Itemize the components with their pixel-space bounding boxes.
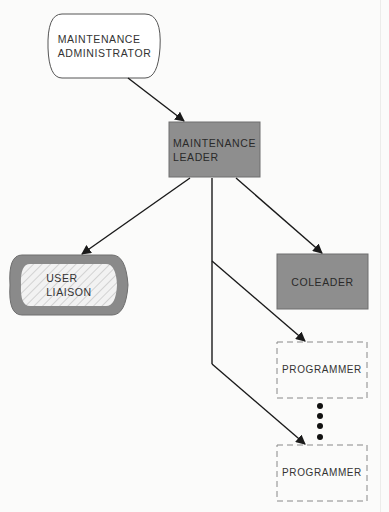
node-coleader: COLEADER — [277, 254, 368, 309]
liaison-label-line1: USER — [46, 271, 92, 285]
administrator-label-line1: MAINTENANCE — [58, 32, 152, 46]
edge-admin-leader — [128, 78, 184, 121]
programmer1-label: PROGRAMMER — [282, 363, 362, 377]
edge-leader-coleader — [236, 178, 322, 253]
node-user-liaison: USER LIAISON — [10, 255, 128, 315]
node-programmer-2: PROGRAMMER — [277, 445, 367, 501]
node-programmer-1: PROGRAMMER — [277, 342, 367, 398]
liaison-label-line2: LIAISON — [46, 285, 92, 299]
edge-leader-liaison — [82, 178, 190, 254]
node-maintenance-administrator: MAINTENANCE ADMINISTRATOR — [48, 14, 161, 78]
node-maintenance-leader: MAINTENANCE LEADER — [169, 122, 260, 177]
coleader-label: COLEADER — [291, 275, 354, 289]
programmer2-label: PROGRAMMER — [282, 466, 362, 480]
ellipsis-dots — [317, 403, 323, 440]
leader-label-line2: LEADER — [173, 150, 256, 164]
leader-label-line1: MAINTENANCE — [173, 136, 256, 150]
administrator-label-line2: ADMINISTRATOR — [58, 46, 152, 60]
